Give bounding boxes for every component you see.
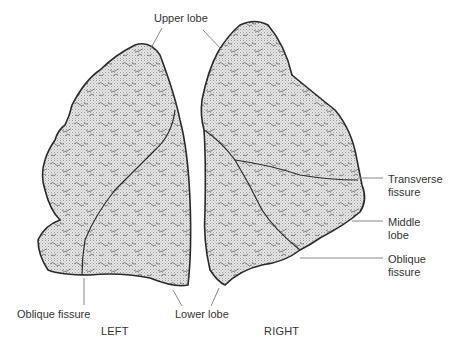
label-upper-lobe: Upper lobe — [154, 12, 208, 25]
left-lung-outline — [38, 44, 191, 286]
label-oblique-fissure-right: Oblique fissure — [388, 253, 426, 279]
left-lung — [38, 44, 191, 286]
label-middle-lobe-line2: lobe — [388, 229, 420, 242]
label-transverse-fissure: Transverse fissure — [388, 173, 443, 199]
side-label-right: RIGHT — [264, 325, 299, 337]
label-transverse-fissure-line1: Transverse — [388, 173, 443, 186]
leader-upper-lobe-left — [150, 28, 162, 50]
right-lung-outline — [201, 22, 364, 286]
label-middle-lobe-line1: Middle — [388, 216, 420, 229]
label-middle-lobe: Middle lobe — [388, 216, 420, 242]
label-transverse-fissure-line2: fissure — [388, 186, 443, 199]
label-oblique-fissure-right-line1: Oblique — [388, 253, 426, 266]
label-oblique-fissure-left: Oblique fissure — [17, 308, 90, 321]
leader-lower-lobe-right — [211, 288, 219, 306]
leader-upper-lobe-right — [203, 30, 222, 50]
label-oblique-fissure-right-line2: fissure — [388, 266, 426, 279]
label-lower-lobe: Lower lobe — [175, 308, 229, 321]
side-label-left: LEFT — [101, 325, 129, 337]
leader-lower-lobe-left — [173, 290, 182, 306]
right-lung — [201, 22, 364, 286]
